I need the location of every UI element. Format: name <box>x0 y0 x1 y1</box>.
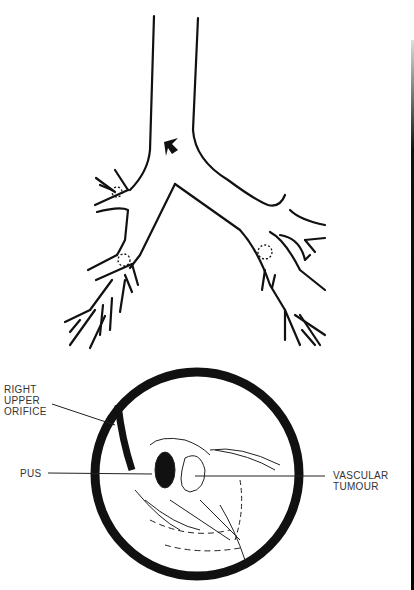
label-vascular-tumour: VASCULAR TUMOUR <box>333 470 389 492</box>
label-line: ORIFICE <box>4 406 47 417</box>
label-line: UPPER <box>4 395 47 406</box>
label-right-upper-orifice: RIGHT UPPER ORIFICE <box>4 384 47 417</box>
diagram-canvas <box>0 0 414 590</box>
label-line: VASCULAR <box>333 470 389 481</box>
label-line: RIGHT <box>4 384 47 395</box>
label-line: TUMOUR <box>333 481 389 492</box>
arrow-icon <box>164 138 178 156</box>
label-pus: PUS <box>20 468 41 479</box>
bronchial-tree <box>65 16 325 348</box>
dotted-lesion-markers <box>112 187 272 266</box>
bronchoscopic-view <box>48 372 325 576</box>
